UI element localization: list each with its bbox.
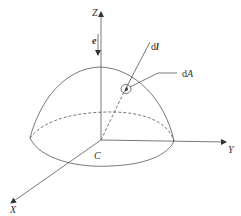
normal-line [125,42,150,90]
y-axis-label: Y [228,144,235,155]
base-curve-front [30,138,174,166]
hemisphere-dome [30,67,174,141]
x-axis [11,140,101,203]
area-element-arrow-icon [124,86,128,92]
z-axis-label: Z [92,7,98,18]
da-label: dA [182,68,194,79]
hemisphere-diagram: Z Y X e C dl dA [0,0,241,216]
e-label: e [92,35,97,46]
base-curve-back [30,112,174,141]
x-axis-label: X [9,204,17,215]
y-axis [101,140,226,142]
dl-label: dl [151,41,159,52]
radius-dashed [101,92,124,140]
c-label: C [94,150,101,161]
